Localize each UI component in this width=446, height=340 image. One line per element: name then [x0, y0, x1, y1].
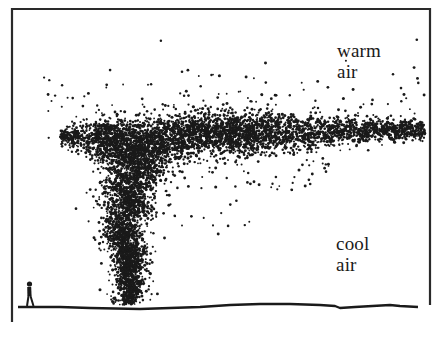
warm-air-label-line2: air	[337, 61, 381, 82]
person-figure-icon	[27, 281, 34, 306]
warm-air-label-line1: warm	[337, 40, 381, 61]
ground-line	[18, 304, 418, 309]
cool-air-label-line1: cool	[336, 233, 370, 254]
cool-air-label: cool air	[336, 233, 370, 275]
warm-air-label: warm air	[337, 40, 381, 82]
cool-air-label-line2: air	[336, 254, 370, 275]
